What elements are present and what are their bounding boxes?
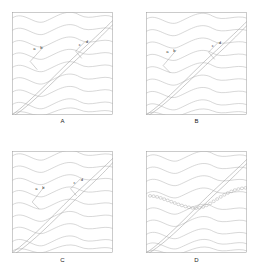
annotation-c: c — [212, 43, 214, 48]
panel-c-plot: a b c d — [12, 151, 113, 253]
annotation-c: c — [74, 180, 76, 185]
panel-label-a: A — [12, 117, 113, 125]
panel-label-b: B — [146, 117, 247, 125]
panel-frame — [12, 12, 112, 114]
panel-d — [146, 151, 247, 253]
panel-label-c: C — [12, 256, 113, 264]
panel-a-plot: a b c d — [12, 12, 113, 115]
panel-label-d: D — [146, 256, 247, 264]
panel-frame — [146, 151, 246, 252]
annotation-c: c — [79, 42, 81, 47]
figure-root: a b c d A — [0, 0, 265, 275]
panel-c: a b c d — [12, 151, 113, 253]
panel-b: a b c d — [146, 12, 247, 115]
panel-a: a b c d — [12, 12, 113, 115]
annotation-d: d — [219, 40, 221, 45]
annotation-d: d — [81, 177, 83, 182]
panel-b-plot: a b c d — [146, 12, 247, 115]
panel-d-plot — [146, 151, 247, 253]
annotation-d: d — [86, 39, 88, 44]
